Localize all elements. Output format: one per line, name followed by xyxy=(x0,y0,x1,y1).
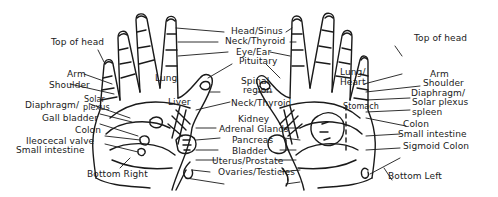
left-hand-outline xyxy=(93,14,213,190)
label-ovaries-testicles: Ovaries/Testicles xyxy=(218,168,295,177)
label-shoulder-left: Shoulder xyxy=(49,81,90,90)
label-lung-right: Lung/ xyxy=(340,68,366,77)
label-top-of-head-right: Top of head xyxy=(414,34,467,43)
label-uterus-prostate: Uterus/Prostate xyxy=(212,157,283,166)
label-liver: Liver xyxy=(168,98,191,107)
label-heart: Heart xyxy=(340,78,366,87)
label-sigmoid-colon: Sigmoid Colon xyxy=(403,142,469,151)
reflexology-diagram: Top of head Arm Shoulder Diaphragm/ Sola… xyxy=(0,0,498,197)
label-pancreas: Pancreas xyxy=(232,136,273,145)
label-neck-thyroid-top: Neck/Thyroid xyxy=(225,37,285,46)
label-arm-left: Arm xyxy=(67,70,86,79)
label-solar-plexus-right: Solar plexus xyxy=(412,98,468,107)
label-top-of-head-left: Top of head xyxy=(51,38,104,47)
label-plexus-left: plexus xyxy=(83,104,110,112)
label-small-intestine-left: Small intestine xyxy=(16,146,85,155)
label-shoulder-right: Shoulder xyxy=(423,79,464,88)
label-diaphragm-left: Diaphragm/ xyxy=(25,101,79,110)
label-region: region xyxy=(243,86,272,95)
label-adrenal-glands: Adrenal Glands xyxy=(219,125,289,134)
label-small-intestine-right: Small intestine xyxy=(398,130,467,139)
label-lung-left: Lung xyxy=(155,74,177,83)
label-neck-thyroid: Neck/Thyroid xyxy=(231,99,291,108)
label-kidney: Kidney xyxy=(238,115,269,124)
label-bladder: Bladder xyxy=(232,147,268,156)
label-colon-right: Colon xyxy=(403,120,429,129)
label-pituitary: Pituitary xyxy=(239,57,277,66)
caption-bottom-left: Bottom Left xyxy=(388,172,442,181)
caption-bottom-right: Bottom Right xyxy=(87,170,148,179)
label-gall-bladder: Gall bladder xyxy=(42,114,98,123)
label-colon-left: Colon xyxy=(75,126,101,135)
label-spleen: spleen xyxy=(412,108,442,117)
label-head-sinus: Head/Sinus xyxy=(231,27,283,36)
label-stomach: Stomach xyxy=(343,103,379,111)
